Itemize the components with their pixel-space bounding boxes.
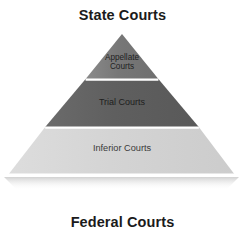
- pyramid-graphic: Appellate Courts Trial Courts Inferior C…: [0, 0, 245, 200]
- band-shape-appellate-courts: [86, 34, 159, 79]
- page-title-federal-courts: Federal Courts: [0, 214, 245, 231]
- court-hierarchy-diagram: State Courts: [0, 0, 245, 239]
- band-shape-trial-courts: [45, 79, 199, 127]
- pyramid-base-shadow: [4, 177, 239, 190]
- band-shape-inferior-courts: [8, 127, 235, 175]
- pyramid-svg: [0, 0, 245, 200]
